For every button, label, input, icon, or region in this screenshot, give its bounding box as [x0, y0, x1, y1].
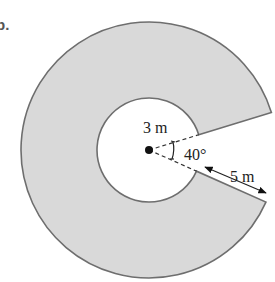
angle-label: 40°	[184, 146, 206, 163]
annular-sector-diagram: b. 3 m 40° 5 m	[0, 0, 275, 282]
inner-radius-label: 3 m	[143, 119, 168, 136]
angle-tick-top	[171, 141, 175, 142]
angle-arc-icon	[172, 142, 174, 159]
part-label: b.	[0, 16, 9, 33]
width-label: 5 m	[230, 168, 255, 185]
center-point	[145, 146, 153, 154]
